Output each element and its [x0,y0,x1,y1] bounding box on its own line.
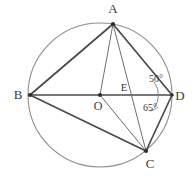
geometry-figure: A B C D O E 50° 65° [0,0,195,182]
center-dot-o [98,93,102,97]
label-center-o: O [94,99,103,113]
vertex-dot-d [170,93,174,97]
label-point-a: A [108,1,118,16]
segment-bc [30,95,146,151]
vertex-dot-c [144,149,148,153]
angle-label-50: 50° [149,73,163,84]
segment-ao-radius [100,24,113,95]
label-point-d: D [175,88,184,103]
label-point-c: C [146,156,155,171]
geometry-canvas: A B C D O E 50° 65° [0,0,195,182]
segment-ab [30,24,113,95]
vertex-dot-a [111,22,115,26]
angle-label-65: 65° [143,102,157,113]
label-point-b: B [14,87,23,102]
label-point-e: E [121,81,128,93]
vertex-dot-b [28,93,32,97]
